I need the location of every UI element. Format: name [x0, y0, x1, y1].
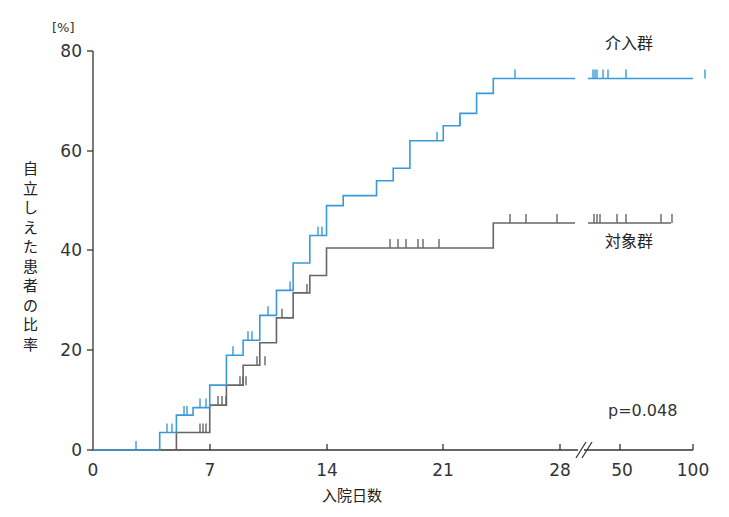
y-axis	[87, 51, 93, 451]
x-tick-28: 28	[549, 460, 571, 480]
x-tick-100: 100	[677, 460, 709, 480]
x-tick-21: 21	[432, 460, 454, 480]
y-tick-40: 40	[60, 240, 82, 260]
series-control-label: 対象群	[605, 232, 653, 251]
y-axis-title: 自立しえた患者の比率	[20, 160, 40, 355]
y-tick-80: 80	[60, 41, 82, 61]
y-unit-label: [%]	[52, 20, 75, 35]
y-tick-60: 60	[60, 141, 82, 161]
y-tick-0: 0	[71, 440, 82, 460]
p-value-annotation: p=0.048	[608, 401, 677, 420]
series-intervention-label: 介入群	[605, 34, 653, 53]
y-tick-20: 20	[60, 340, 82, 360]
x-tick-0: 0	[88, 460, 99, 480]
series-intervention-curve	[93, 69, 705, 450]
x-axis	[93, 444, 693, 450]
x-axis-title: 入院日数	[322, 487, 382, 505]
y-tick-labels: 80 60 40 20 0	[60, 41, 82, 460]
x-tick-14: 14	[316, 460, 338, 480]
km-chart: [%] 80 60 40 20 0 0 7 14 21 28 50 100	[0, 0, 729, 517]
x-tick-7: 7	[205, 460, 216, 480]
x-tick-labels: 0 7 14 21 28 50 100	[88, 460, 710, 480]
x-tick-50: 50	[611, 460, 633, 480]
